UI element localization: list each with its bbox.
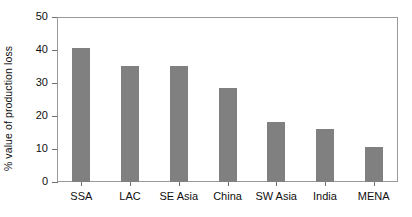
y-tick-mark: [52, 182, 58, 183]
x-tick-label: SW Asia: [255, 190, 297, 202]
x-tick-mark: [374, 182, 375, 186]
bar: [365, 147, 383, 182]
bars-group: [57, 17, 398, 182]
y-tick-label: 10: [8, 143, 48, 154]
x-tick-label: SE Asia: [160, 190, 199, 202]
x-tick-mark: [276, 182, 277, 186]
y-tick-label: 0: [8, 176, 48, 187]
bar: [72, 48, 90, 182]
x-tick-mark: [81, 182, 82, 186]
x-tick-label: China: [213, 190, 242, 202]
x-tick-mark: [130, 182, 131, 186]
y-tick-label: 20: [8, 110, 48, 121]
bar: [316, 129, 334, 182]
y-tick-label: 40: [8, 44, 48, 55]
bar: [267, 122, 285, 182]
x-tick-label: LAC: [119, 190, 140, 202]
bar-chart-figure: % value of production loss 01020304050 S…: [0, 0, 412, 217]
bar: [219, 88, 237, 182]
x-tick-label: SSA: [70, 190, 92, 202]
x-tick-label: MENA: [358, 190, 390, 202]
x-tick-mark: [179, 182, 180, 186]
bar: [170, 66, 188, 182]
y-tick-label: 30: [8, 77, 48, 88]
bar: [121, 66, 139, 182]
x-tick-label: India: [313, 190, 337, 202]
x-tick-mark: [228, 182, 229, 186]
y-tick-label: 50: [8, 11, 48, 22]
x-tick-mark: [325, 182, 326, 186]
